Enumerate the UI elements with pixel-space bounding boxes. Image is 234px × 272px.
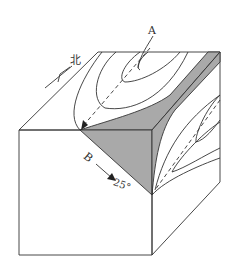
shaded-right-strip (152, 52, 220, 195)
block-diagram-svg (0, 0, 234, 272)
north-arrow (45, 66, 72, 88)
label-a: A (148, 25, 156, 36)
shaded-top-strip (80, 52, 220, 130)
contour (152, 158, 220, 195)
block-diagram: A 北 B 25° (0, 0, 234, 272)
contour (196, 95, 220, 142)
label-north: 北 (70, 55, 81, 66)
contour (122, 52, 180, 82)
